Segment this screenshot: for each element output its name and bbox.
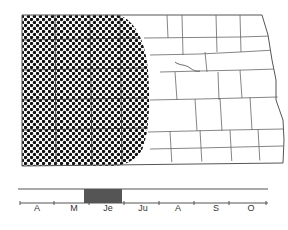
shaded-range-region xyxy=(22,15,149,166)
month-label-may: M xyxy=(70,203,78,213)
month-label-june: Je xyxy=(103,203,113,213)
month-label-october: O xyxy=(247,203,254,213)
month-label-april: A xyxy=(34,203,40,213)
month-label-september: S xyxy=(213,203,219,213)
active-period-bar xyxy=(84,189,122,203)
month-label-august: A xyxy=(175,203,181,213)
north-dakota-map xyxy=(0,0,288,175)
month-label-july: Ju xyxy=(138,203,148,213)
